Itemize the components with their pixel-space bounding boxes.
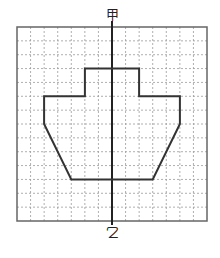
grid-figure (0, 0, 220, 258)
